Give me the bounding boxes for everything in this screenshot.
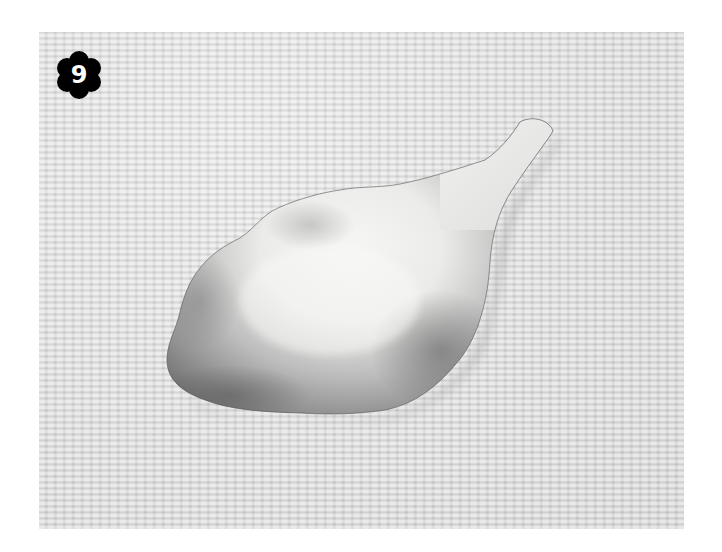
- petal-illustration: [39, 32, 684, 529]
- step-number-badge: 9: [54, 50, 104, 100]
- step-number: 9: [54, 50, 104, 100]
- photo: [39, 32, 684, 529]
